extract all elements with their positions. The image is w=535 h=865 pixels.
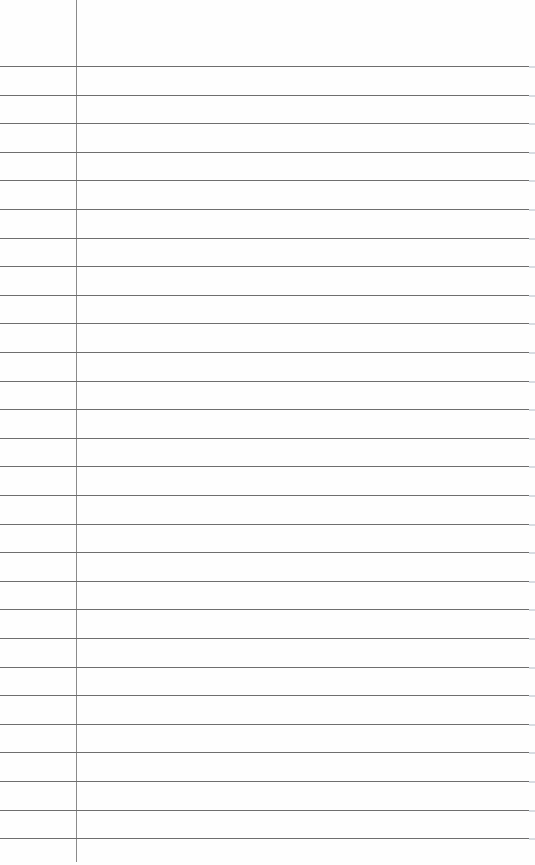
ruled-line (0, 266, 529, 267)
ruled-line-edge (529, 409, 535, 411)
lined-paper-sheet (0, 0, 535, 865)
ruled-line (0, 95, 529, 96)
ruled-line (0, 581, 529, 582)
margin-line (76, 0, 77, 862)
ruled-line (0, 66, 529, 67)
ruled-line-edge (529, 695, 535, 697)
ruled-line (0, 838, 529, 839)
ruled-line-edge (529, 524, 535, 526)
ruled-line-edge (529, 838, 535, 840)
ruled-line-edge (529, 781, 535, 783)
ruled-line (0, 152, 529, 153)
ruled-line (0, 238, 529, 239)
ruled-line-edge (529, 238, 535, 240)
ruled-line-edge (529, 66, 535, 68)
ruled-line-edge (529, 724, 535, 726)
ruled-line (0, 609, 529, 610)
ruled-line (0, 667, 529, 668)
ruled-line-edge (529, 381, 535, 383)
ruled-line-edge (529, 552, 535, 554)
ruled-line (0, 638, 529, 639)
ruled-line-edge (529, 810, 535, 812)
ruled-line (0, 180, 529, 181)
ruled-line (0, 810, 529, 811)
ruled-line (0, 495, 529, 496)
ruled-line-edge (529, 667, 535, 669)
ruled-line-edge (529, 752, 535, 754)
ruled-line (0, 438, 529, 439)
ruled-line-edge (529, 495, 535, 497)
ruled-line-edge (529, 209, 535, 211)
ruled-line-edge (529, 123, 535, 125)
ruled-line (0, 524, 529, 525)
ruled-line-edge (529, 581, 535, 583)
ruled-line (0, 381, 529, 382)
ruled-line (0, 209, 529, 210)
ruled-line (0, 466, 529, 467)
ruled-line-edge (529, 295, 535, 297)
ruled-line (0, 552, 529, 553)
ruled-line (0, 724, 529, 725)
ruled-line-edge (529, 95, 535, 97)
ruled-line-edge (529, 323, 535, 325)
ruled-line (0, 695, 529, 696)
ruled-line (0, 352, 529, 353)
ruled-line-edge (529, 152, 535, 154)
ruled-line-edge (529, 638, 535, 640)
ruled-line-edge (529, 466, 535, 468)
ruled-line (0, 323, 529, 324)
ruled-line (0, 295, 529, 296)
ruled-line-edge (529, 609, 535, 611)
ruled-line (0, 781, 529, 782)
ruled-line-edge (529, 266, 535, 268)
ruled-line (0, 409, 529, 410)
ruled-line-edge (529, 180, 535, 182)
ruled-line (0, 752, 529, 753)
ruled-line-edge (529, 438, 535, 440)
ruled-line (0, 123, 529, 124)
ruled-line-edge (529, 352, 535, 354)
